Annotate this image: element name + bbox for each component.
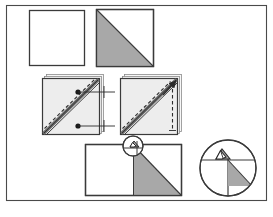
step-4-right-stitched-pair xyxy=(121,75,182,135)
instruction-diagram xyxy=(0,0,273,217)
callout-circle-magnified xyxy=(200,140,256,196)
step-2-half-square-triangle xyxy=(97,10,154,67)
plain-square-shape xyxy=(30,11,85,66)
figure-root xyxy=(0,0,273,217)
step-1-plain-square xyxy=(30,11,85,66)
callout-circle-small xyxy=(122,136,144,156)
